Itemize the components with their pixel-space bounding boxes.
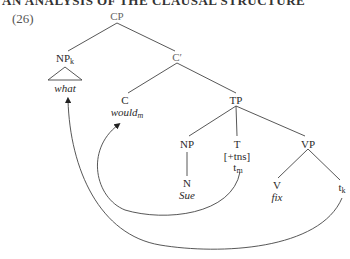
node-n: N	[183, 177, 191, 189]
node-cp: CP	[110, 10, 123, 22]
word-what: what	[54, 82, 75, 94]
node-v: V	[273, 179, 281, 191]
trace-t-k: tk	[338, 181, 345, 193]
node-t: T	[234, 138, 241, 150]
node-np-k: NPk	[56, 52, 74, 64]
trace-t-m: tm	[233, 161, 242, 173]
word-would: wouldm	[111, 106, 144, 118]
syntax-tree-lines	[0, 0, 350, 259]
node-tp: TP	[230, 94, 243, 106]
word-fix: fix	[272, 191, 283, 203]
node-np: NP	[180, 138, 194, 150]
word-sue: Sue	[179, 189, 195, 201]
node-c-bar: C′	[172, 51, 182, 63]
node-c: C	[121, 94, 128, 106]
node-vp: VP	[301, 138, 315, 150]
